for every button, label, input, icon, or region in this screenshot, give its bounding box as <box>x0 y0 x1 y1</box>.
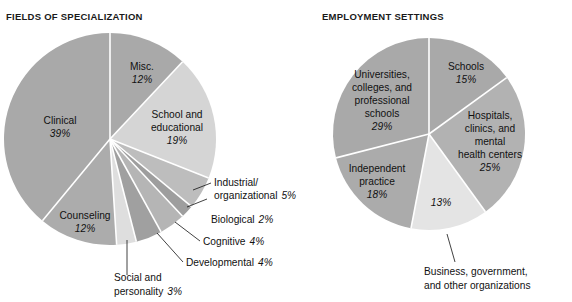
slice-pct-universities: 29% <box>371 121 392 132</box>
callout-social-and-personality: Social and personality3% <box>114 272 182 297</box>
slice-label-universities-line1: Universities, <box>354 69 409 80</box>
callout-label-developmental: Developmental4% <box>186 257 273 268</box>
slice-pct-school-and-educational: 19% <box>167 135 187 146</box>
slice-label-school-and-educational-line1: School and <box>152 109 203 120</box>
slice-pct-clinical: 39% <box>50 128 70 139</box>
callout-developmental: Developmental4% <box>186 257 273 268</box>
callout-industrial-organizational: Industrial/ organizational5% <box>214 177 296 201</box>
slice-pct-counseling: 12% <box>75 223 95 234</box>
slice-label-schools: Schools <box>448 61 484 72</box>
slice-label-group-business-government: 13% <box>431 197 451 208</box>
slice-label-school-and-educational-line2: educational <box>151 122 203 133</box>
callout-label-cognitive: Cognitive4% <box>203 236 264 247</box>
slice-label-hospitals-line3: mental <box>475 136 506 147</box>
slice-label-independent-practice-line1: Independent <box>349 163 406 174</box>
slice-label-universities-line4: schools <box>365 108 400 119</box>
pie-chart-employment-settings <box>333 38 525 230</box>
callout-label-business-government-line2: and other organizations <box>424 280 530 291</box>
callout-business-government: Business, government, and other organiza… <box>424 266 530 291</box>
slice-pct-schools: 15% <box>456 74 476 85</box>
pie-charts-figure: Misc. 12% School and educational 19% Cli… <box>0 0 572 302</box>
slice-label-clinical: Clinical <box>44 115 77 126</box>
slice-label-hospitals-line1: Hospitals, <box>468 110 513 121</box>
slice-label-universities-line3: professional <box>355 95 410 106</box>
slice-pct-business-government: 13% <box>431 197 451 208</box>
slice-label-hospitals-line2: clinics, and <box>465 123 516 134</box>
slice-label-universities-line2: colleges, and <box>352 82 412 93</box>
callout-label-social-and-personality-line1: Social and <box>114 272 162 283</box>
slice-pct-independent-practice: 18% <box>367 189 387 200</box>
callout-label-social-and-personality-line2: personality3% <box>114 286 182 297</box>
slice-label-misc: Misc. <box>130 61 154 72</box>
callout-label-industrial-organizational-line2: organizational5% <box>214 190 296 201</box>
callout-label-business-government-line1: Business, government, <box>424 266 528 277</box>
slice-label-independent-practice-line2: practice <box>359 176 395 187</box>
leader-line-developmental <box>157 233 183 262</box>
slice-pct-misc: 12% <box>132 74 152 85</box>
leader-line-cognitive <box>175 222 200 241</box>
slice-pct-hospitals: 25% <box>479 162 500 173</box>
slice-label-counseling: Counseling <box>60 210 111 221</box>
slice-label-hospitals-line4: health centers <box>458 149 522 160</box>
callout-biological: Biological2% <box>211 214 273 225</box>
callout-label-industrial-organizational-line1: Industrial/ <box>214 177 258 188</box>
callout-cognitive: Cognitive4% <box>203 236 264 247</box>
leader-line-business-government <box>447 234 455 262</box>
callout-label-biological: Biological2% <box>211 214 273 225</box>
